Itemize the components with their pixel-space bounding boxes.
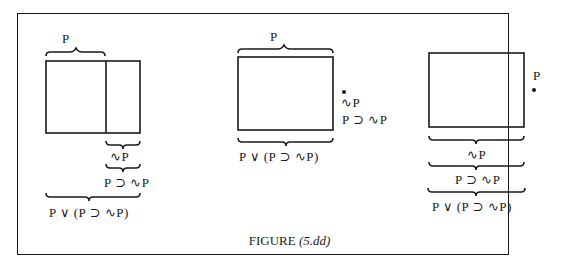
right-label-disjunction: P ∨ (P ⊃ ∿P) — [432, 200, 512, 213]
middle-bottom-brace-icon — [238, 138, 333, 146]
right-point-icon — [532, 88, 536, 92]
middle-point-icon — [342, 90, 346, 94]
right-label-p-implies-not-p: P ⊃ ∿P — [455, 173, 500, 186]
middle-label-p-implies-not-p: P ⊃ ∿P — [342, 113, 387, 126]
figure-diagram — [0, 0, 579, 268]
right-brace-3-icon — [428, 188, 525, 196]
right-label-not-p: ∿P — [467, 148, 486, 161]
middle-label-not-p: ∿P — [341, 96, 360, 109]
middle-rectangle — [238, 57, 333, 130]
left-label-disjunction: P ∨ (P ⊃ ∿P) — [49, 206, 129, 219]
left-label-not-p: ∿P — [110, 150, 129, 163]
middle-top-brace-icon — [238, 45, 333, 53]
caption-number: (5.dd) — [299, 233, 330, 248]
left-brace-3-icon — [46, 193, 140, 201]
middle-label-disjunction: P ∨ (P ⊃ ∿P) — [239, 150, 319, 163]
left-top-brace-icon — [46, 48, 105, 56]
right-brace-1-icon — [429, 136, 524, 144]
right-rectangle — [429, 53, 524, 127]
middle-label-p: P — [270, 30, 278, 43]
right-label-p: P — [533, 69, 541, 82]
left-brace-1-icon — [106, 141, 140, 149]
left-brace-2-icon — [106, 164, 140, 172]
figure-caption: FIGURE (5.dd) — [0, 233, 579, 249]
left-rectangle — [46, 61, 140, 133]
caption-label: FIGURE — [249, 233, 296, 248]
left-label-p: P — [62, 32, 70, 45]
left-label-p-implies-not-p: P ⊃ ∿P — [104, 176, 149, 189]
middle-panel — [238, 45, 346, 146]
right-brace-2-icon — [429, 162, 524, 170]
